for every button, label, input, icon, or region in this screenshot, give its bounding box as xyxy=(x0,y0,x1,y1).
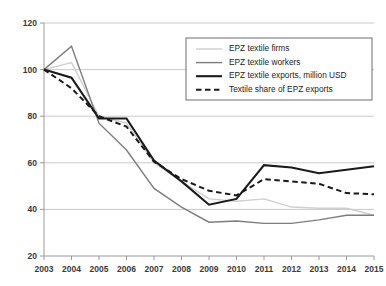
chart-legend: EPZ textile firmsEPZ textile workersEPZ … xyxy=(186,38,372,100)
y-axis-label-80: 80 xyxy=(28,111,38,121)
y-axis-labels-group: 20406080100120 xyxy=(23,18,37,261)
x-axis-label-2013: 2013 xyxy=(310,264,329,274)
y-axis-label-100: 100 xyxy=(23,65,37,75)
x-axis-label-2009: 2009 xyxy=(200,264,219,274)
x-axis-label-2012: 2012 xyxy=(282,264,301,274)
legend-label-1: EPZ textile workers xyxy=(229,57,300,67)
x-axis-label-2014: 2014 xyxy=(337,264,356,274)
y-axis-label-20: 20 xyxy=(28,251,38,261)
x-axis-label-2003: 2003 xyxy=(35,264,54,274)
x-axis-label-2005: 2005 xyxy=(90,264,109,274)
y-axis-label-120: 120 xyxy=(23,18,37,28)
y-axis-label-60: 60 xyxy=(28,158,38,168)
legend-label-3: Textile share of EPZ exports xyxy=(229,84,333,94)
y-axis-label-40: 40 xyxy=(28,204,38,214)
x-axis-ticks-group xyxy=(44,256,374,260)
x-axis-label-2015: 2015 xyxy=(365,264,384,274)
legend-label-2: EPZ textile exports, million USD xyxy=(229,70,347,80)
x-axis-label-2006: 2006 xyxy=(117,264,136,274)
y-axis-ticks-group xyxy=(40,23,44,256)
x-axis-label-2007: 2007 xyxy=(145,264,164,274)
x-axis-label-2011: 2011 xyxy=(255,264,274,274)
chart-container: 20406080100120 2003200420052006200720082… xyxy=(0,0,386,286)
x-axis-label-2004: 2004 xyxy=(62,264,81,274)
line-chart: 20406080100120 2003200420052006200720082… xyxy=(0,0,386,286)
x-axis-labels-group: 2003200420052006200720082009201020112012… xyxy=(35,264,384,274)
x-axis-label-2008: 2008 xyxy=(172,264,191,274)
legend-label-0: EPZ textile firms xyxy=(229,43,289,53)
x-axis-label-2010: 2010 xyxy=(227,264,246,274)
